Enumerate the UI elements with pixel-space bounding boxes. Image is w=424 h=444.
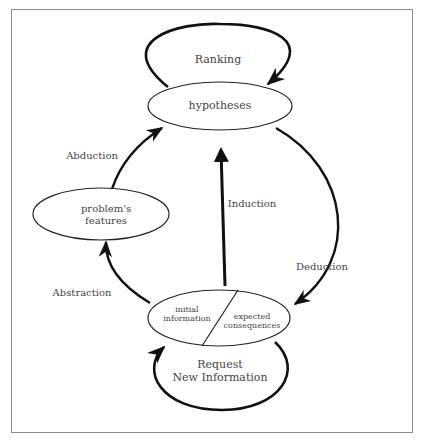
request-line1: Request — [172, 359, 267, 372]
abstraction-edge — [106, 242, 150, 303]
induction-label: Induction — [228, 198, 277, 210]
problem-features-label: problem's features — [81, 203, 131, 226]
induction-edge — [221, 150, 225, 286]
initial-information-label: initial information — [163, 305, 210, 323]
initial-information-line1: initial — [163, 305, 210, 314]
initial-information-line2: information — [163, 314, 210, 323]
request-line2: New Information — [172, 372, 267, 385]
expected-consequences-label: expected consequences — [224, 312, 281, 330]
deduction-label: Deduction — [296, 261, 348, 273]
problem-features-line2: features — [81, 214, 131, 226]
ranking-label: Ranking — [195, 54, 242, 67]
expected-consequences-line1: expected — [224, 312, 281, 321]
abduction-label: Abduction — [66, 150, 118, 162]
abduction-edge — [112, 128, 162, 189]
problem-features-line1: problem's — [81, 203, 131, 215]
deduction-edge — [276, 128, 338, 304]
abstraction-label: Abstraction — [53, 287, 112, 299]
request-new-information-label: Request New Information — [172, 359, 267, 384]
expected-consequences-line2: consequences — [224, 321, 281, 330]
hypotheses-label: hypotheses — [189, 100, 252, 113]
